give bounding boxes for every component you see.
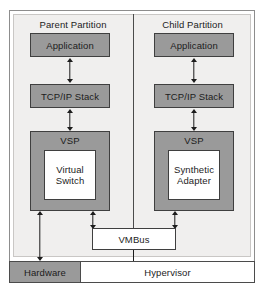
parent-partition-caption: Parent Partition bbox=[13, 19, 133, 30]
arrowhead-down-icon bbox=[67, 79, 73, 83]
arrow-shaft bbox=[193, 112, 194, 128]
child-vsp-to-vmbus-arrow bbox=[168, 211, 182, 229]
virtual-switch-box[interactable]: Virtual Switch bbox=[44, 150, 96, 200]
synthetic-adapter-box[interactable]: Synthetic Adapter bbox=[168, 150, 220, 200]
arrow-shaft bbox=[69, 61, 70, 80]
partition-divider bbox=[133, 14, 134, 261]
child-application-label: Application bbox=[170, 40, 218, 51]
hardware-label: Hardware bbox=[24, 267, 66, 278]
virtual-switch-label-line2: Switch bbox=[56, 175, 85, 186]
parent-vsp-label: VSP bbox=[60, 135, 79, 146]
arrow-shaft bbox=[69, 112, 70, 128]
child-app-to-tcpip-arrow bbox=[187, 58, 201, 83]
child-tcpip-to-vsp-arrow bbox=[187, 109, 201, 131]
child-tcpip-box[interactable]: TCP/IP Stack bbox=[154, 84, 234, 108]
parent-tcpip-label: TCP/IP Stack bbox=[41, 91, 99, 102]
hardware-box[interactable]: Hardware bbox=[9, 261, 81, 283]
virtual-switch-label-line1: Virtual bbox=[56, 164, 83, 175]
parent-vsp-to-vmbus-arrow bbox=[86, 211, 100, 229]
parent-tcpip-to-vsp-arrow bbox=[63, 109, 77, 131]
hypervisor-label: Hypervisor bbox=[144, 267, 190, 278]
vmbus-label: VMBus bbox=[118, 234, 149, 245]
vmbus-to-hypervisor-line bbox=[133, 250, 134, 261]
parent-app-to-tcpip-arrow bbox=[63, 58, 77, 83]
hypervisor-box[interactable]: Hypervisor bbox=[80, 261, 255, 283]
parent-application-label: Application bbox=[46, 40, 94, 51]
synthetic-adapter-label-line2: Adapter bbox=[177, 175, 211, 186]
parent-tcpip-box[interactable]: TCP/IP Stack bbox=[30, 84, 110, 108]
child-vsp-label: VSP bbox=[184, 135, 203, 146]
synthetic-adapter-label-line1: Synthetic bbox=[174, 164, 214, 175]
arrow-shaft bbox=[39, 214, 40, 258]
child-application-box[interactable]: Application bbox=[154, 33, 234, 57]
arrowhead-down-icon bbox=[191, 79, 197, 83]
vmbus-box[interactable]: VMBus bbox=[92, 228, 176, 250]
arrow-shaft bbox=[193, 61, 194, 80]
child-partition-caption: Child Partition bbox=[134, 19, 251, 30]
diagram-canvas: Parent Partition Application TCP/IP Stac… bbox=[0, 0, 261, 294]
child-tcpip-label: TCP/IP Stack bbox=[165, 91, 223, 102]
parent-vsp-to-hardware-arrow bbox=[33, 211, 47, 261]
parent-application-box[interactable]: Application bbox=[30, 33, 110, 57]
